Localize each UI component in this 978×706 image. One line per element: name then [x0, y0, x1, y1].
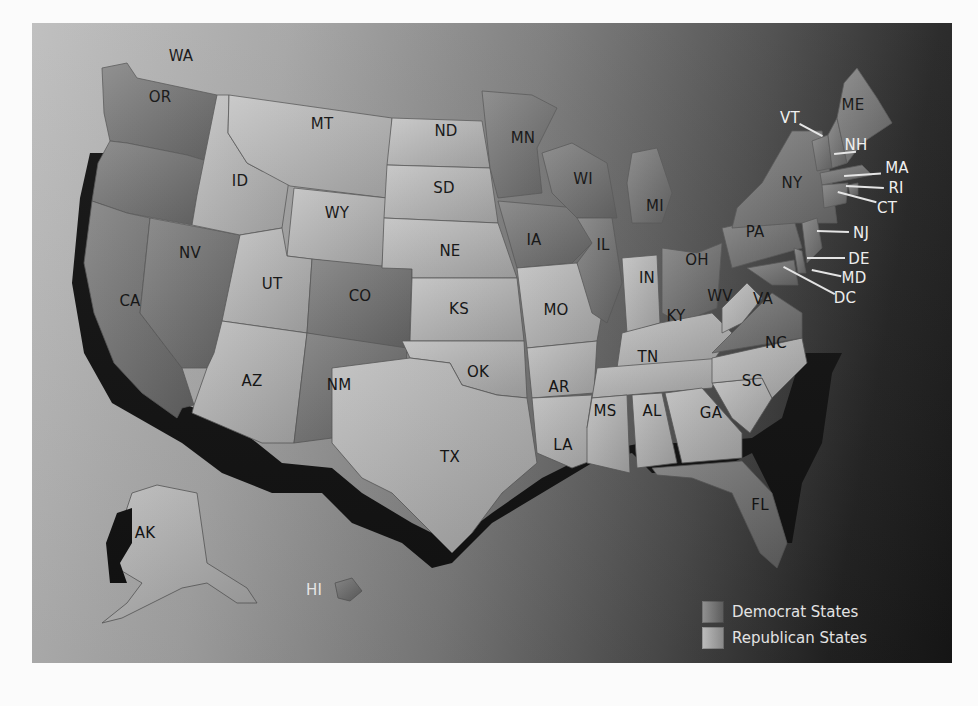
- legend-label-republican: Republican States: [732, 629, 867, 647]
- label-OR: OR: [149, 88, 172, 106]
- map-legend: Democrat States Republican States: [702, 600, 867, 652]
- label-VA: VA: [753, 290, 773, 308]
- label-PA: PA: [746, 223, 765, 241]
- label-NY: NY: [782, 174, 803, 192]
- legend-label-democrat: Democrat States: [732, 603, 858, 621]
- label-SD: SD: [433, 179, 454, 197]
- label-MS: MS: [594, 402, 617, 420]
- label-HI: HI: [306, 581, 322, 599]
- label-WY: WY: [325, 204, 349, 222]
- callout-line-DE: [807, 257, 845, 259]
- label-ID: ID: [232, 172, 248, 190]
- label-CT: CT: [877, 199, 897, 217]
- state-CT[interactable]: [822, 183, 848, 208]
- democrat-swatch-icon: [702, 601, 724, 623]
- label-AZ: AZ: [242, 372, 263, 390]
- label-OK: OK: [467, 363, 489, 381]
- state-IN[interactable]: [622, 255, 660, 333]
- state-HI[interactable]: [335, 578, 362, 601]
- label-WV: WV: [707, 287, 733, 305]
- label-MI: MI: [646, 197, 664, 215]
- label-SC: SC: [742, 372, 762, 390]
- label-IA: IA: [526, 231, 541, 249]
- label-TX: TX: [440, 448, 460, 466]
- legend-item-republican: Republican States: [702, 626, 867, 650]
- label-VT: VT: [780, 109, 800, 127]
- label-MD: MD: [842, 269, 867, 287]
- label-IL: IL: [596, 236, 609, 254]
- label-IN: IN: [639, 269, 655, 287]
- label-LA: LA: [553, 436, 572, 454]
- label-MN: MN: [511, 129, 536, 147]
- label-DE: DE: [848, 250, 869, 268]
- state-MD[interactable]: [747, 260, 798, 285]
- label-MT: MT: [311, 115, 334, 133]
- republican-swatch-icon: [702, 627, 724, 649]
- label-NM: NM: [327, 376, 352, 394]
- label-AK: AK: [135, 524, 156, 542]
- label-ND: ND: [434, 122, 457, 140]
- label-WA: WA: [169, 47, 194, 65]
- label-AR: AR: [548, 378, 569, 396]
- label-RI: RI: [888, 179, 903, 197]
- label-NJ: NJ: [853, 224, 869, 242]
- label-GA: GA: [700, 404, 722, 422]
- map-canvas: [32, 23, 952, 663]
- label-OH: OH: [685, 251, 709, 269]
- label-NV: NV: [179, 244, 201, 262]
- us-election-map: WA OR CA NV ID MT WY UT AZ CO NM ND SD N…: [32, 23, 952, 663]
- label-KS: KS: [449, 300, 469, 318]
- label-TN: TN: [638, 348, 659, 366]
- label-WI: WI: [573, 170, 593, 188]
- label-FL: FL: [751, 496, 768, 514]
- label-NC: NC: [765, 334, 787, 352]
- label-DC: DC: [834, 289, 856, 307]
- label-CA: CA: [119, 292, 140, 310]
- label-AL: AL: [642, 402, 661, 420]
- label-MA: MA: [885, 159, 909, 177]
- label-ME: ME: [842, 96, 865, 114]
- label-NE: NE: [439, 242, 460, 260]
- state-WY[interactable]: [287, 188, 387, 268]
- label-UT: UT: [262, 275, 283, 293]
- label-CO: CO: [349, 287, 372, 305]
- label-MO: MO: [543, 301, 568, 319]
- legend-item-democrat: Democrat States: [702, 600, 867, 624]
- label-KY: KY: [667, 307, 686, 325]
